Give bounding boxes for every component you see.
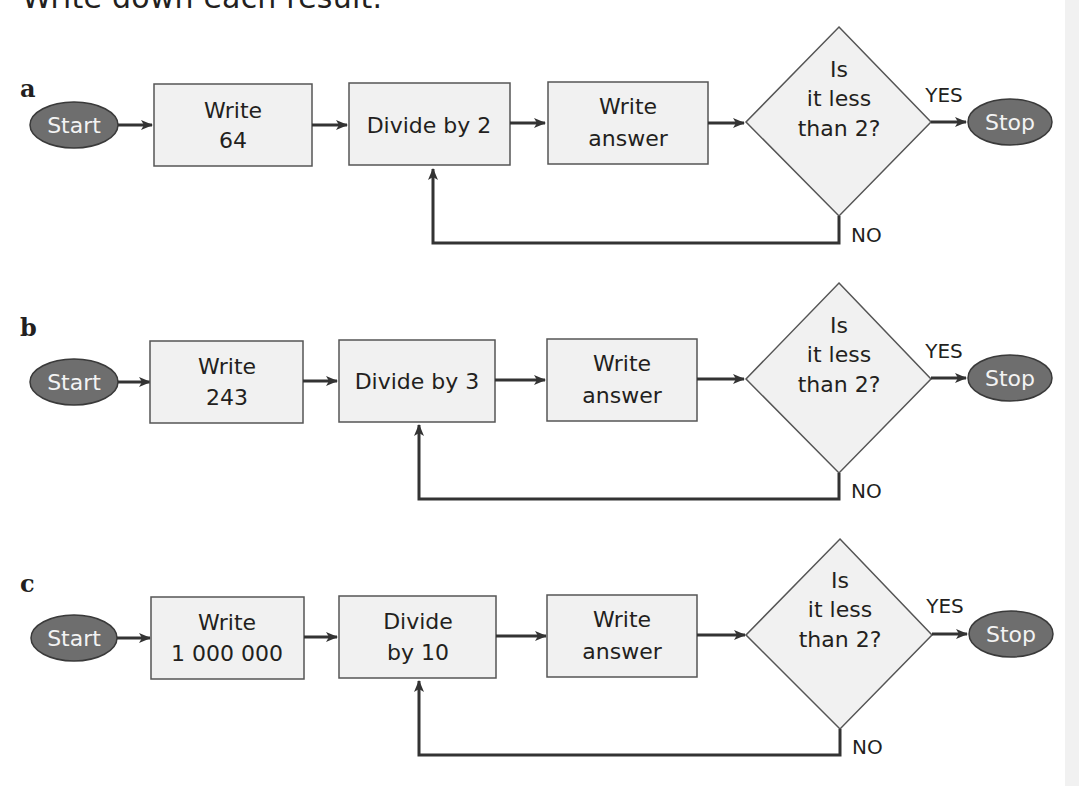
no-label: NO [852, 735, 883, 759]
decision-line-2: it less [807, 86, 871, 111]
decision-line-1: Is [831, 568, 849, 593]
divide-box: Divide by 2 [349, 83, 510, 165]
flowchart-a: a Start Write 64 Divide by 2 Write [0, 0, 1079, 240]
decision-line-3: than 2? [798, 372, 881, 397]
no-loop-connector [433, 169, 839, 243]
decision-line-2: it less [808, 597, 872, 622]
flowchart-graphic: Start Write 64 Divide by 2 Write answer … [0, 0, 1079, 260]
write-answer-box: Write answer [547, 595, 697, 677]
start-label: Start [47, 626, 101, 651]
answer-box-line-2: answer [582, 383, 662, 408]
decision-line-3: than 2? [799, 627, 882, 652]
write-box-line-2: 1 000 000 [171, 641, 283, 666]
answer-box-line-1: Write [593, 351, 651, 376]
flowchart-graphic: Start Write 1 000 000 Divide by 10 Write… [0, 513, 1079, 773]
no-label: NO [851, 223, 882, 247]
divide-box: Divide by 10 [339, 596, 496, 678]
divide-box-line-1: Divide by 3 [355, 369, 480, 394]
start-terminal: Start [31, 615, 117, 661]
divide-box-line-1: Divide by 2 [367, 113, 492, 138]
yes-label: YES [924, 339, 963, 363]
stop-label: Stop [986, 622, 1036, 647]
decision-diamond: Is it less than 2? [746, 539, 932, 729]
answer-box-line-2: answer [582, 639, 662, 664]
flowchart-b: b Start Write 243 Divide by 3 Write answ… [0, 257, 1079, 497]
flowchart-graphic: Start Write 243 Divide by 3 Write answer… [0, 257, 1079, 517]
write-start-box: Write 1 000 000 [151, 597, 304, 679]
start-terminal: Start [30, 102, 118, 148]
write-box-line-1: Write [198, 610, 256, 635]
write-answer-box: Write answer [548, 82, 708, 164]
answer-box-line-1: Write [593, 607, 651, 632]
write-box-line-2: 243 [206, 385, 248, 410]
write-answer-box: Write answer [547, 339, 697, 421]
decision-line-2: it less [807, 342, 871, 367]
yes-label: YES [925, 594, 964, 618]
stop-terminal: Stop [968, 355, 1052, 401]
start-terminal: Start [30, 359, 118, 405]
decision-line-1: Is [830, 313, 848, 338]
no-label: NO [851, 479, 882, 503]
stop-terminal: Stop [969, 611, 1053, 657]
decision-diamond: Is it less than 2? [746, 283, 931, 473]
decision-diamond: Is it less than 2? [746, 27, 931, 216]
write-box-line-1: Write [198, 354, 256, 379]
stop-label: Stop [985, 366, 1035, 391]
write-start-box: Write 64 [154, 84, 312, 166]
divide-box-line-1: Divide [383, 609, 453, 634]
answer-box-line-2: answer [588, 126, 668, 151]
answer-box-line-1: Write [599, 94, 657, 119]
stop-terminal: Stop [968, 99, 1052, 145]
divide-box-line-2: by 10 [387, 640, 449, 665]
write-box-line-2: 64 [219, 128, 247, 153]
no-loop-connector [419, 425, 839, 499]
divide-box: Divide by 3 [339, 340, 495, 422]
stop-label: Stop [985, 110, 1035, 135]
no-loop-connector [419, 681, 840, 755]
yes-label: YES [924, 83, 963, 107]
decision-line-3: than 2? [798, 116, 881, 141]
flowchart-c: c Start Write 1 000 000 Divide by 10 Wri… [0, 513, 1079, 753]
start-label: Start [47, 370, 101, 395]
write-start-box: Write 243 [150, 341, 303, 423]
decision-line-1: Is [830, 57, 848, 82]
write-box-line-1: Write [204, 98, 262, 123]
start-label: Start [47, 113, 101, 138]
